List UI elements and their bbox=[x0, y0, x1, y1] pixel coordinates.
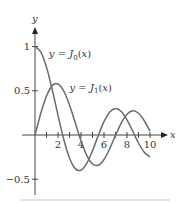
bessel-chart: x y 246810 10.5−0.5 y = J0(x)y = J1(x) bbox=[0, 0, 182, 203]
bottom-divider bbox=[20, 199, 170, 201]
y-tick-label: −0.5 bbox=[6, 174, 30, 185]
y-ticks: 10.5−0.5 bbox=[6, 41, 38, 185]
y-axis-arrow-icon bbox=[32, 27, 38, 34]
series-lines bbox=[35, 47, 150, 171]
x-tick-label: 10 bbox=[144, 139, 157, 150]
series-line-0 bbox=[35, 47, 150, 171]
y-tick-label: 1 bbox=[24, 41, 30, 52]
curve-label-0: y = J0(x) bbox=[48, 48, 91, 62]
curve-labels: y = J0(x)y = J1(x) bbox=[48, 48, 112, 95]
curve-label-1: y = J1(x) bbox=[69, 82, 112, 96]
x-tick-label: 6 bbox=[101, 139, 107, 150]
x-tick-label: 2 bbox=[55, 139, 61, 150]
x-axis-label: x bbox=[170, 129, 176, 140]
x-tick-label: 8 bbox=[124, 139, 130, 150]
x-axis-arrow-icon bbox=[161, 132, 168, 138]
series-line-1 bbox=[35, 84, 150, 166]
axes: x y 246810 10.5−0.5 bbox=[6, 13, 176, 195]
y-axis-label: y bbox=[31, 13, 38, 24]
y-tick-label: 0.5 bbox=[14, 85, 30, 96]
